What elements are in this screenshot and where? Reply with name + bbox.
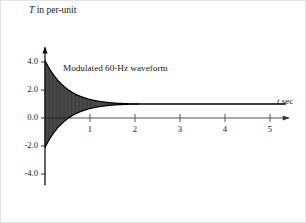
x-tick-label: 4: [219, 124, 231, 134]
y-tick-label: -4.0: [12, 168, 38, 178]
axis-lines: [42, 46, 289, 185]
y-tick-label: 4.0: [12, 56, 38, 66]
x-tick-label: 5: [264, 124, 276, 134]
y-tick-label: 0.0: [12, 112, 38, 122]
x-tick-label: 3: [174, 124, 186, 134]
x-tick-label: 2: [129, 124, 141, 134]
y-tick-label: -2.0: [12, 140, 38, 150]
figure-panel: T in per-unit t sec Modulated 60-Hz wave…: [0, 0, 306, 223]
x-tick-label: 1: [84, 124, 96, 134]
chart-plot-area: [1, 1, 306, 223]
y-tick-label: 2.0: [12, 84, 38, 94]
waveform-trace: [45, 61, 286, 148]
